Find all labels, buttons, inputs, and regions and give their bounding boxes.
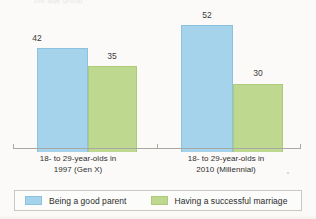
axis-tick: [157, 144, 158, 149]
legend-label: Being a good parent: [49, 196, 127, 206]
bar-group1-series1: [233, 84, 283, 152]
bar-value-label: 42: [26, 33, 48, 43]
bar-group0-series0: [37, 48, 88, 152]
bar-value-label: 52: [196, 10, 218, 20]
x-axis-category-label-1: 18- to 29-year-olds in 2010 (Millennial): [166, 154, 286, 175]
plot-area: 42 35 52 30: [0, 0, 316, 152]
bar-value-label: 35: [101, 51, 123, 61]
legend-swatch-blue-icon: [25, 196, 42, 205]
scan-edge-shading: [0, 215, 316, 219]
axis-tick: [13, 144, 14, 149]
scan-artifact-speck: [287, 172, 289, 174]
legend: Being a good parent Having a successful …: [14, 190, 302, 211]
x-axis-category-label-0: 18- to 29-year-olds in 1997 (Gen X): [20, 154, 136, 175]
legend-label: Having a successful marriage: [175, 196, 288, 206]
axis-tick: [300, 144, 301, 149]
bar-value-label: 30: [247, 68, 269, 78]
legend-swatch-green-icon: [151, 196, 168, 205]
bar-chart: the age group 42 35 52 30 18- to 29-year…: [0, 0, 316, 219]
bar-group1-series0: [181, 25, 233, 152]
bar-group0-series1: [88, 66, 137, 152]
legend-item-being-a-good-parent: Being a good parent: [25, 191, 127, 210]
legend-item-having-a-successful-marriage: Having a successful marriage: [151, 191, 288, 210]
